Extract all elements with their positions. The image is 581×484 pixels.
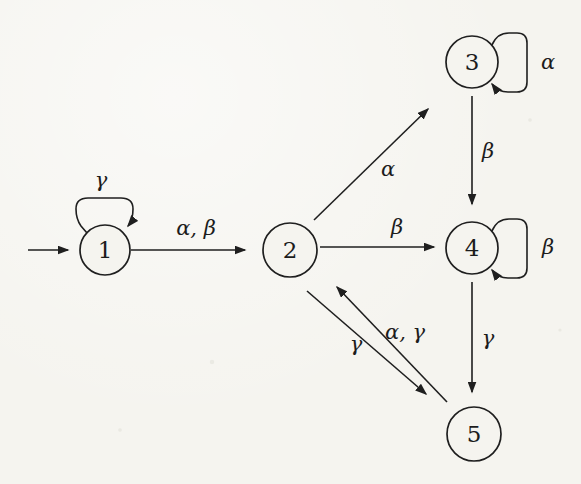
transition-5-2-label: α, γ [385,320,426,344]
self-loop-1-label: γ [95,168,108,192]
transition-arrow-2-3 [314,109,428,220]
transition-2-4-label: β [390,215,403,239]
paper-speck [528,118,532,122]
self-loop-3-label: α [541,50,555,74]
transition-4-5-label: γ [482,326,495,350]
state-2-label: 2 [283,237,298,263]
paper-speck [558,328,561,331]
state-4-label: 4 [465,235,480,261]
transition-3-4-label: β [481,139,494,163]
state-1-label: 1 [98,237,113,263]
state-5-label: 5 [467,421,482,447]
state-3-label: 3 [465,49,480,75]
state-diagram: 1 2 3 4 5 γ α, β α β α β β γ γ α, γ [0,0,581,484]
transition-2-5-label: γ [350,332,363,356]
transition-1-2-label: α, β [176,216,216,240]
paper-speck [210,360,214,364]
transition-2-3-label: α [381,157,395,181]
self-loop-4-label: β [541,235,554,259]
paper-speck [118,428,122,432]
scanned-page: 1 2 3 4 5 γ α, β α β α β β γ γ α, γ [0,0,581,484]
